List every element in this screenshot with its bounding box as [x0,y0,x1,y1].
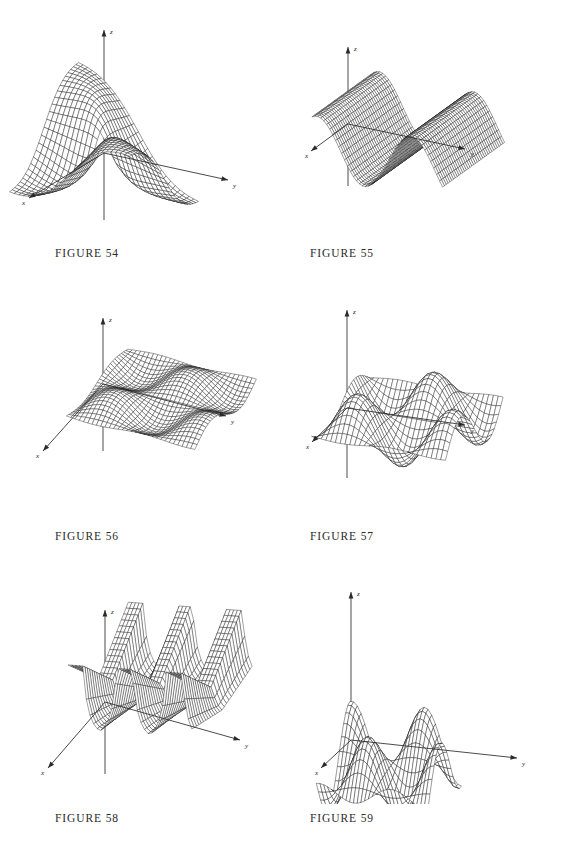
figure-panel-56: zxy [0,296,285,522]
surface-svg-59: zxy [285,572,570,804]
svg-text:x: x [304,152,309,160]
svg-text:x: x [305,443,310,451]
surface-svg-56: zxy [0,296,285,522]
svg-text:z: z [352,308,356,316]
svg-text:x: x [21,199,26,207]
surface-svg-54: zxy [0,8,285,244]
figure-panel-57: zxy [285,290,570,522]
mesh-quads [312,372,504,466]
svg-text:z: z [108,316,112,324]
figure-panel-58: zxy [0,578,285,804]
surface-plot-57: zxy [285,290,570,522]
figure-caption-58: FIGURE 58 [55,812,119,824]
svg-text:y: y [232,182,237,190]
svg-text:z: z [109,28,113,36]
surface-plot-59: zxy [285,572,570,804]
figure-caption-55: FIGURE 55 [310,247,374,259]
svg-text:x: x [35,452,40,460]
figure-page: zxy zxy zxy zxy zxy zxy FIGURE 54 FIGURE… [0,0,570,846]
mesh-quads [316,701,461,804]
figure-panel-59: zxy [285,572,570,804]
svg-text:y: y [230,418,235,426]
surface-svg-55: zxy [285,8,570,244]
surface-plot-54: zxy [0,8,285,244]
figure-caption-54: FIGURE 54 [55,247,119,259]
figure-caption-59: FIGURE 59 [310,812,374,824]
svg-text:z: z [353,45,357,53]
figure-caption-57: FIGURE 57 [310,530,374,542]
svg-text:x: x [40,769,45,777]
svg-text:y: y [521,760,526,768]
svg-text:y: y [244,742,249,750]
svg-text:z: z [110,608,114,616]
svg-text:x: x [314,769,319,777]
surface-svg-57: zxy [285,290,570,522]
mesh-quads [68,602,252,733]
surface-plot-56: zxy [0,296,285,522]
surface-plot-55: zxy [285,8,570,244]
svg-text:z: z [356,590,360,598]
surface-svg-58: zxy [0,578,285,804]
figure-panel-54: zxy [0,8,285,244]
figure-panel-55: zxy [285,8,570,244]
figure-caption-56: FIGURE 56 [55,530,119,542]
surface-plot-58: zxy [0,578,285,804]
axis-x: x [40,702,105,777]
